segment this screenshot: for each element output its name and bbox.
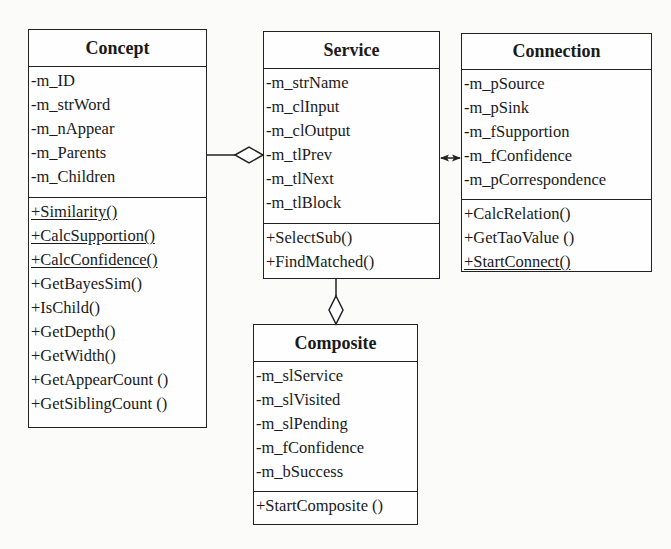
attribute: -m_bSuccess (256, 460, 417, 484)
class-connection: Connection -m_pSource -m_pSink -m_fSuppo… (461, 33, 652, 272)
method: +CalcRelation() (464, 202, 651, 226)
attribute: -m_tlBlock (266, 191, 439, 215)
attribute: -m_Children (31, 165, 206, 189)
method: +GetTaoValue () (464, 226, 651, 250)
method: +SelectSub() (266, 226, 439, 250)
method: +GetDepth() (31, 320, 206, 344)
class-title-connection: Connection (462, 34, 651, 70)
composite-methods: +StartComposite () (254, 492, 417, 518)
attribute: -m_pSource (464, 72, 651, 96)
class-title-composite: Composite (254, 325, 417, 362)
aggregation-composite-service (329, 279, 343, 324)
aggregation-diamond-icon (235, 147, 263, 163)
attribute: -m_Parents (31, 141, 206, 165)
attribute: -m_tlPrev (266, 143, 439, 167)
concept-attributes: -m_ID -m_strWord -m_nAppear -m_Parents -… (29, 67, 206, 198)
association-service-connection (440, 155, 461, 162)
method: +GetWidth() (31, 344, 206, 368)
arrowhead-left-icon (440, 155, 449, 162)
class-concept: Concept -m_ID -m_strWord -m_nAppear -m_P… (28, 29, 207, 428)
attribute: -m_strName (266, 71, 439, 95)
service-attributes: -m_strName -m_clInput -m_clOutput -m_tlP… (264, 69, 439, 224)
attribute: -m_fConfidence (464, 144, 651, 168)
aggregation-diamond-icon (329, 296, 343, 324)
service-methods: +SelectSub() +FindMatched() (264, 224, 439, 274)
method-static: +Similarity() (31, 200, 206, 224)
method: +IsChild() (31, 296, 206, 320)
attribute: -m_clInput (266, 95, 439, 119)
attribute: -m_pCorrespondence (464, 168, 651, 192)
concept-methods: +Similarity() +CalcSupportion() +CalcCon… (29, 198, 206, 416)
class-composite: Composite -m_slService -m_slVisited -m_s… (253, 324, 418, 525)
attribute: -m_clOutput (266, 119, 439, 143)
class-title-concept: Concept (29, 30, 206, 67)
attribute: -m_fSupportion (464, 120, 651, 144)
attribute: -m_slVisited (256, 388, 417, 412)
connection-attributes: -m_pSource -m_pSink -m_fSupportion -m_fC… (462, 70, 651, 200)
attribute: -m_ID (31, 69, 206, 93)
method-static: +CalcConfidence() (31, 248, 206, 272)
method: +StartComposite () (256, 494, 417, 518)
composite-attributes: -m_slService -m_slVisited -m_slPending -… (254, 362, 417, 492)
attribute: -m_fConfidence (256, 436, 417, 460)
attribute: -m_tlNext (266, 167, 439, 191)
class-service: Service -m_strName -m_clInput -m_clOutpu… (263, 31, 440, 279)
method: +GetBayesSim() (31, 272, 206, 296)
attribute: -m_pSink (464, 96, 651, 120)
method-static: +StartConnect() (464, 250, 651, 274)
attribute: -m_slService (256, 364, 417, 388)
method-static: +CalcSupportion() (31, 224, 206, 248)
method: +FindMatched() (266, 250, 439, 274)
class-title-service: Service (264, 32, 439, 69)
attribute: -m_slPending (256, 412, 417, 436)
attribute: -m_nAppear (31, 117, 206, 141)
attribute: -m_strWord (31, 93, 206, 117)
arrowhead-right-icon (452, 155, 461, 162)
connection-methods: +CalcRelation() +GetTaoValue () +StartCo… (462, 200, 651, 274)
method: +GetAppearCount () (31, 368, 206, 392)
method: +GetSiblingCount () (31, 392, 206, 416)
aggregation-concept-service (207, 147, 263, 163)
